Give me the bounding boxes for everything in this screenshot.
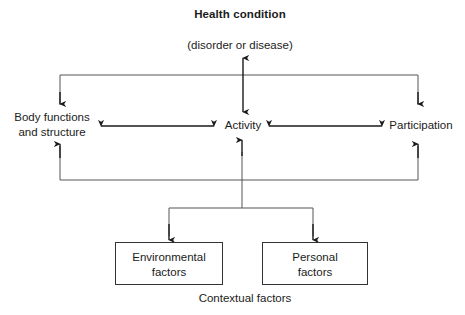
bottom-bracket-connector (60, 146, 418, 180)
node-label-activity: Activity (205, 118, 281, 133)
node-label-body-functions: Body functions and structure (2, 110, 102, 140)
icf-diagram: Health condition (disorder or disease) B… (0, 0, 465, 315)
contextual-fork-connector (169, 208, 313, 236)
group-label-contextual-factors: Contextual factors (178, 291, 312, 306)
node-label-personal-factors: Personal factors (263, 250, 367, 280)
node-label-environmental-factors: Environmental factors (116, 250, 222, 280)
top-bracket-connector (60, 75, 418, 105)
node-label-participation: Participation (378, 118, 464, 133)
page-title: Health condition (150, 7, 330, 22)
health-condition-subtitle: (disorder or disease) (150, 38, 330, 53)
